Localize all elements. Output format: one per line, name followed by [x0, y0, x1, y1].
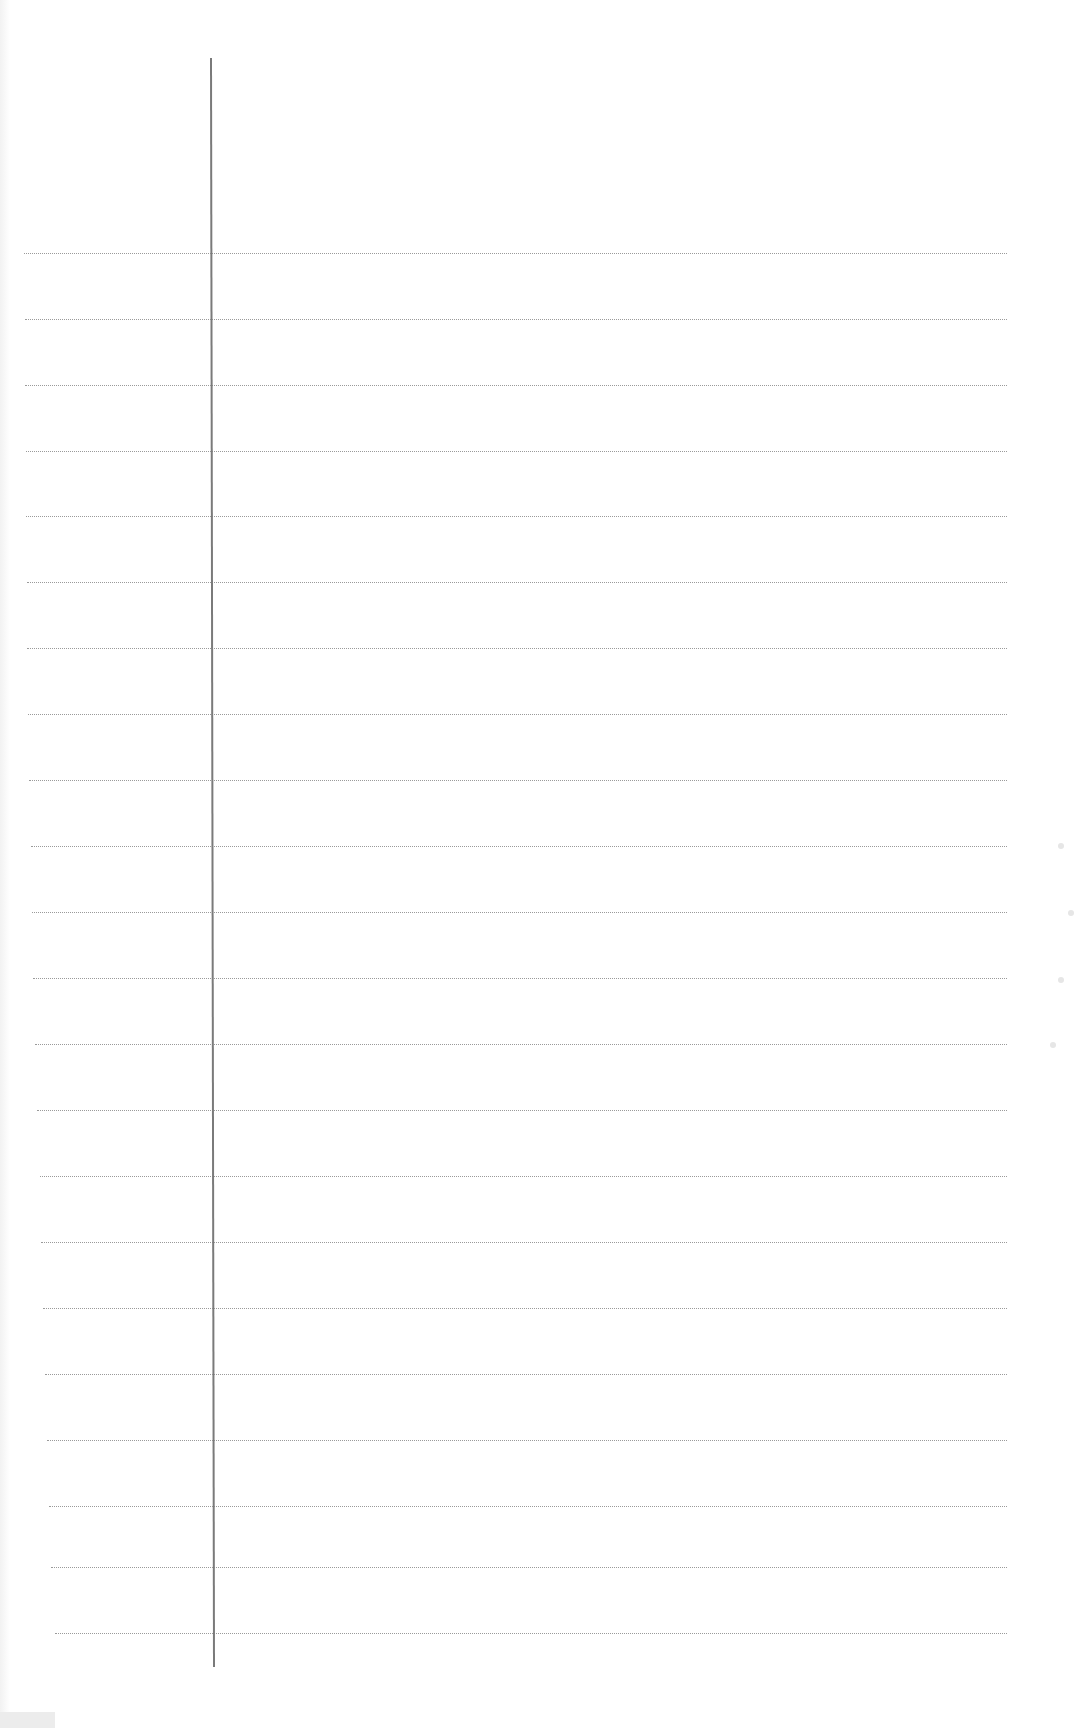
- ruled-line: [26, 516, 1007, 517]
- ruled-line: [29, 780, 1007, 781]
- ruled-line: [31, 846, 1007, 847]
- margin-line: [210, 58, 215, 1667]
- ruled-line: [24, 253, 1007, 254]
- scan-mark: [1050, 1042, 1056, 1048]
- ruled-line: [43, 1308, 1007, 1309]
- ruled-line: [25, 319, 1007, 320]
- scan-corner-smudge: [0, 1712, 55, 1728]
- ruled-line: [26, 451, 1007, 452]
- lined-paper-page: [0, 0, 1076, 1728]
- ruled-line: [27, 648, 1007, 649]
- ruled-line: [45, 1374, 1007, 1375]
- ruled-line: [49, 1506, 1007, 1507]
- scan-edge-shadow: [0, 0, 10, 1728]
- ruled-line: [51, 1567, 1007, 1568]
- scan-mark: [1058, 977, 1064, 983]
- ruled-line: [35, 1044, 1007, 1045]
- ruled-line: [55, 1633, 1007, 1634]
- scan-mark: [1058, 843, 1064, 849]
- ruled-line: [37, 1110, 1007, 1111]
- ruled-line: [41, 1242, 1007, 1243]
- ruled-line: [25, 385, 1007, 386]
- ruled-line: [28, 714, 1007, 715]
- ruled-line: [40, 1176, 1007, 1177]
- ruled-line: [47, 1440, 1007, 1441]
- ruled-line: [27, 582, 1007, 583]
- ruled-line: [33, 978, 1007, 979]
- ruled-line: [32, 912, 1007, 913]
- scan-mark: [1068, 910, 1074, 916]
